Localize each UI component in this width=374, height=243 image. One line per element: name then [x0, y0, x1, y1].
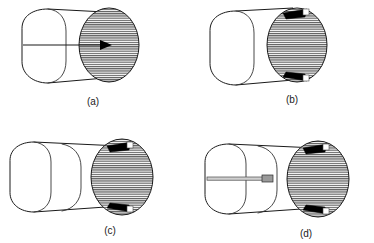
probe-bar-d — [207, 177, 269, 180]
panel-c: (c) — [10, 139, 153, 236]
probe-head-d — [262, 175, 273, 182]
wedge-bottom-notch-d — [323, 208, 329, 214]
wedge-bottom-notch-b — [303, 75, 309, 81]
panel-a: (a) — [22, 8, 139, 107]
wedge-top-notch-c — [127, 142, 133, 148]
panel-caption-a: (a) — [87, 96, 99, 107]
wedge-top-notch-b — [303, 9, 309, 15]
cylinder-diagram: (a) (b) (c) — [0, 0, 374, 243]
end-face-b — [267, 8, 327, 82]
panel-d: (d) — [205, 141, 349, 239]
wedge-bottom-notch-c — [127, 206, 133, 212]
wedge-top-notch-d — [323, 144, 329, 150]
figure-container: (a) (b) (c) — [0, 0, 374, 243]
panel-caption-c: (c) — [104, 225, 116, 236]
panel-caption-d: (d) — [300, 228, 312, 239]
panel-b: (b) — [210, 8, 327, 105]
panel-caption-b: (b) — [286, 94, 298, 105]
